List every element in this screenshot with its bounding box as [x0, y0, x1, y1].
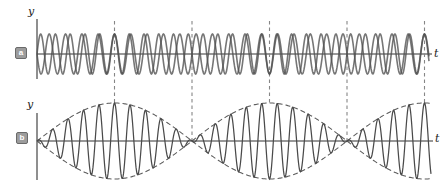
panel-a-badge: a [15, 47, 27, 59]
waveform-chart [0, 0, 446, 194]
panel-b-t-axis-label: t [435, 133, 439, 144]
panel-b-badge: b [16, 132, 28, 144]
panel-a-t-axis-label: t [434, 48, 438, 59]
beats-figure: a b y t y t [0, 0, 446, 194]
panel-b-y-axis-label: y [27, 99, 33, 110]
panel-a-y-axis-label: y [28, 6, 34, 17]
